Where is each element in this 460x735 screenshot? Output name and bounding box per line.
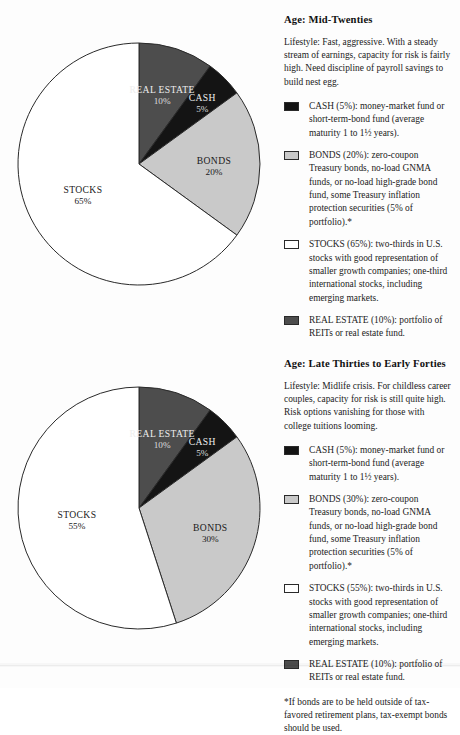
real-estate-swatch-icon xyxy=(284,316,299,325)
pie-slice-value: 5% xyxy=(196,448,209,458)
pie-slice-label: REAL ESTATE xyxy=(130,428,195,439)
age-heading: Age: Late Thirties to Early Forties xyxy=(284,358,452,371)
pie-slice-label: CASH xyxy=(189,436,216,447)
legend-item-bonds: BONDS (20%): zero-coupon Treasury bonds,… xyxy=(284,149,452,229)
age-heading: Age: Mid-Twenties xyxy=(284,14,452,27)
legend-list: CASH (5%): money-market fund or short-te… xyxy=(284,100,452,341)
pie-slice-value: 10% xyxy=(154,440,171,450)
legend-item-text: STOCKS (65%): two-thirds in U.S. stocks … xyxy=(309,238,452,305)
pie-chart-svg-0: REAL ESTATE10%CASH5%BONDS20%STOCKS65% xyxy=(17,40,261,288)
allocation-panel-late-thirties: REAL ESTATE10%CASH5%BONDS30%STOCKS55% Ag… xyxy=(0,344,460,688)
stocks-swatch-icon xyxy=(284,240,299,249)
legend-item-text: STOCKS (55%): two-thirds in U.S. stocks … xyxy=(309,582,452,649)
legend-item-text: BONDS (20%): zero-coupon Treasury bonds,… xyxy=(309,149,452,229)
legend-item-cash: CASH (5%): money-market fund or short-te… xyxy=(284,100,452,140)
pie-slice-value: 65% xyxy=(74,196,91,206)
pie-chart-late-thirties: REAL ESTATE10%CASH5%BONDS30%STOCKS55% xyxy=(17,384,261,632)
pie-slice-value: 55% xyxy=(68,521,85,531)
real-estate-swatch-icon xyxy=(284,660,299,669)
pie-slice-value: 5% xyxy=(196,104,209,114)
pie-slice-label: BONDS xyxy=(193,522,228,533)
legend-item-stocks: STOCKS (65%): two-thirds in U.S. stocks … xyxy=(284,238,452,305)
pie-slice-value: 10% xyxy=(154,96,171,106)
pie-chart-mid-twenties: REAL ESTATE10%CASH5%BONDS20%STOCKS65% xyxy=(17,40,261,288)
lifestyle-description: Lifestyle: Fast, aggressive. With a stea… xyxy=(284,36,452,89)
pie-slice-label: BONDS xyxy=(197,155,232,166)
panel-text-column-1: Age: Late Thirties to Early Forties Life… xyxy=(284,358,452,735)
pie-slice-label: CASH xyxy=(189,92,216,103)
cash-swatch-icon xyxy=(284,446,299,455)
allocation-panel-mid-twenties: REAL ESTATE10%CASH5%BONDS20%STOCKS65% Ag… xyxy=(0,0,460,344)
legend-item-text: REAL ESTATE (10%): portfolio of REITs or… xyxy=(309,658,452,685)
lifestyle-description: Lifestyle: Midlife crisis. For childless… xyxy=(284,380,452,433)
pie-chart-svg-1: REAL ESTATE10%CASH5%BONDS30%STOCKS55% xyxy=(17,384,261,632)
legend-item-text: CASH (5%): money-market fund or short-te… xyxy=(309,444,452,484)
legend-item-bonds: BONDS (30%): zero-coupon Treasury bonds,… xyxy=(284,493,452,573)
pie-slice-label: STOCKS xyxy=(57,509,96,520)
legend-item-text: BONDS (30%): zero-coupon Treasury bonds,… xyxy=(309,493,452,573)
legend-item-text: CASH (5%): money-market fund or short-te… xyxy=(309,100,452,140)
legend-item-text: REAL ESTATE (10%): portfolio of REITs or… xyxy=(309,314,452,341)
pie-slice-label: REAL ESTATE xyxy=(130,84,195,95)
pie-slices-group xyxy=(18,387,260,629)
footnote-text: *If bonds are to be held outside of tax-… xyxy=(284,696,452,735)
pie-slice-value: 20% xyxy=(206,167,223,177)
cash-swatch-icon xyxy=(284,102,299,111)
stocks-swatch-icon xyxy=(284,584,299,593)
legend-item-real-estate: REAL ESTATE (10%): portfolio of REITs or… xyxy=(284,314,452,341)
legend-item-stocks: STOCKS (55%): two-thirds in U.S. stocks … xyxy=(284,582,452,649)
panel-text-column-0: Age: Mid-Twenties Lifestyle: Fast, aggre… xyxy=(284,14,452,341)
legend-item-cash: CASH (5%): money-market fund or short-te… xyxy=(284,444,452,484)
bonds-swatch-icon xyxy=(284,151,299,160)
bonds-swatch-icon xyxy=(284,495,299,504)
pie-slice-value: 30% xyxy=(202,534,219,544)
legend-list: CASH (5%): money-market fund or short-te… xyxy=(284,444,452,685)
legend-item-real-estate: REAL ESTATE (10%): portfolio of REITs or… xyxy=(284,658,452,685)
pie-slice-label: STOCKS xyxy=(63,184,102,195)
